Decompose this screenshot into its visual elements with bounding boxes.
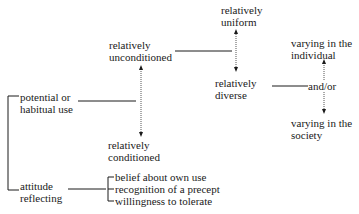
attitude-item-willingness: willingness to tolerate	[115, 195, 212, 207]
node-relatively-diverse: relatively diverse	[215, 77, 257, 101]
node-attitude-reflecting: attitude reflecting	[20, 180, 62, 204]
node-relatively-unconditioned: relatively unconditioned	[109, 39, 172, 63]
node-relatively-conditioned: relatively conditioned	[108, 139, 160, 163]
node-relatively-uniform: relatively uniform	[221, 4, 263, 28]
node-varying-society: varying in the society	[291, 117, 352, 141]
attitude-item-recognition: recognition of a precept	[115, 183, 220, 195]
node-varying-individual: varying in the individual	[291, 37, 352, 61]
attitude-item-belief: belief about own use	[115, 171, 206, 183]
node-potential-use: potential or habitual use	[20, 91, 73, 115]
node-and-or: and/or	[308, 80, 336, 92]
